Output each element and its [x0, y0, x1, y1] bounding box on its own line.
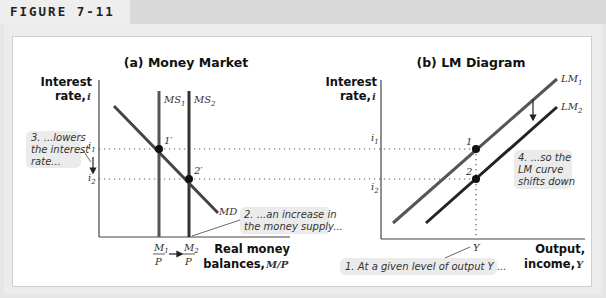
svg-text:shifts down: shifts down — [518, 176, 575, 187]
panel-b-x-axis-label-line1: Output, — [535, 242, 585, 256]
panel-b-y-axis-label-line2: rate, — [340, 89, 371, 103]
panel-b-y-axis-symbol: i — [372, 91, 376, 102]
panel-b-lm-diagram: (b) LM Diagram Interest rate, i i1 i2 LM… — [325, 55, 585, 275]
lm2-label: LM2 — [560, 101, 583, 115]
callout-step-1: 1. At a given level of output Y ... — [340, 247, 506, 275]
point-2-prime-label: 2′ — [193, 165, 203, 176]
panel-b-x-axis-label-line2: income, — [524, 257, 575, 271]
point-1-label: 1 — [466, 136, 472, 147]
svg-text:LM curve: LM curve — [518, 164, 563, 175]
callout-step-3: 3. ...lowers the interest rate... — [26, 131, 91, 168]
panel-a-y-axis-symbol: i — [87, 91, 91, 102]
svg-text:M2: M2 — [183, 242, 199, 255]
callout-step-4: 4. ...so the LM curve shifts down — [514, 150, 575, 189]
lm1-label: LM1 — [560, 73, 582, 87]
panel-a-x-axis-label-line1: Real money — [214, 242, 290, 256]
panel-b-tick-i1: i1 — [371, 132, 379, 146]
panel-b-title: (b) LM Diagram — [416, 55, 525, 70]
point-1-prime-label: 1′ — [164, 135, 173, 146]
panel-a-y-axis-label-line2: rate, — [55, 89, 86, 103]
panel-a-y-axis-label-line1: Interest — [40, 75, 92, 89]
equilibrium-point-2-prime — [185, 175, 193, 183]
panel-a-tick-m2-over-p: M2 P — [183, 242, 199, 267]
panel-a-tick-i2: i2 — [88, 172, 96, 186]
panel-b-y-axis-label-line1: Interest — [325, 75, 377, 89]
svg-text:the money supply...: the money supply... — [244, 221, 343, 232]
equilibrium-point-2 — [472, 175, 480, 183]
svg-text:M1: M1 — [153, 242, 169, 255]
ms1-label: MS1 — [163, 94, 186, 108]
panel-a-x-axis-label-line2: balances, — [203, 257, 265, 271]
svg-text:rate...: rate... — [31, 156, 61, 167]
svg-text:P: P — [154, 256, 162, 267]
panel-a-tick-m1-over-p: M1 P — [153, 242, 169, 267]
diagram-canvas: (a) Money Market Interest rate, i i1 i2 … — [0, 0, 606, 298]
panel-b-tick-i2: i2 — [371, 181, 379, 195]
md-curve — [114, 106, 218, 213]
svg-text:4. ...so the: 4. ...so the — [518, 152, 571, 163]
panel-b-tick-y: Y — [473, 242, 481, 253]
svg-text:P: P — [184, 256, 192, 267]
point-2-label: 2 — [465, 166, 472, 177]
md-label: MD — [218, 206, 237, 217]
svg-text:3. ...lowers: 3. ...lowers — [31, 132, 86, 143]
panel-a-title: (a) Money Market — [124, 55, 249, 70]
panel-a-x-axis-symbol: M/P — [265, 259, 289, 270]
ms2-label: MS2 — [193, 94, 216, 108]
svg-text:1. At a given level of output: 1. At a given level of output Y ... — [345, 261, 506, 272]
svg-text:2. ...an increase in: 2. ...an increase in — [244, 209, 337, 220]
equilibrium-point-1-prime — [155, 145, 163, 153]
svg-text:the interest: the interest — [31, 144, 90, 155]
panel-b-x-axis-symbol: Y — [576, 259, 584, 270]
equilibrium-point-1 — [472, 145, 480, 153]
